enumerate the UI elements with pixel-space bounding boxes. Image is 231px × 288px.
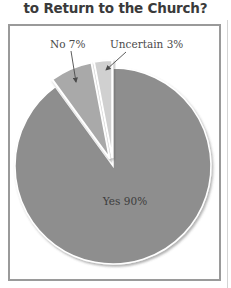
label-yes: Yes 90% — [102, 195, 147, 207]
label-no: No 7% — [50, 38, 86, 50]
label-uncertain: Uncertain 3% — [110, 38, 183, 50]
pie-chart: No 7% Uncertain 3% Yes 90% — [0, 0, 231, 288]
